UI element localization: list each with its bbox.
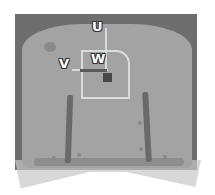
speck <box>52 156 56 160</box>
speck <box>139 147 143 151</box>
label-v: V <box>59 57 69 70</box>
label-u: U <box>92 20 103 33</box>
field-bottom-edge <box>34 158 184 166</box>
speck <box>77 153 81 157</box>
speck <box>138 121 142 125</box>
dashed-bar <box>80 69 107 72</box>
corner-blob <box>44 42 56 52</box>
speck <box>163 155 167 159</box>
dark-square-marker <box>103 73 112 82</box>
label-w: W <box>91 52 105 65</box>
